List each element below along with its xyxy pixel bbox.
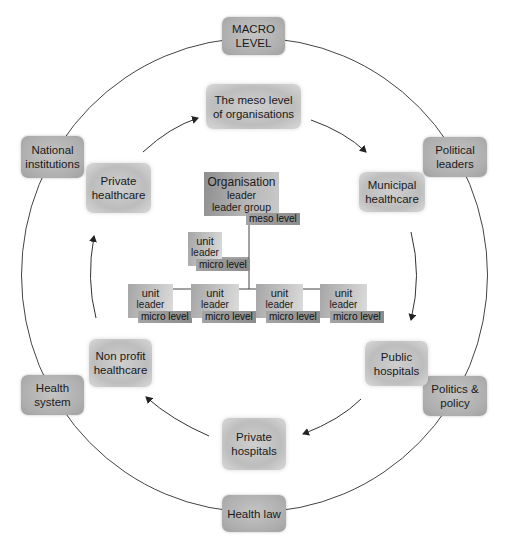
node-private-hospitals: Privatehospitals	[222, 418, 286, 470]
arrow-meso-to-municipal	[311, 120, 366, 152]
node-health-law: Health law	[222, 495, 286, 532]
tag-micro-level-1: micro level	[138, 311, 192, 323]
arrow-municipal-to-public	[411, 232, 417, 320]
node-political-leaders: Politicalleaders	[423, 137, 487, 177]
tag-meso-level: meso level	[246, 213, 300, 225]
node-macro-level: MACROLEVEL	[222, 17, 285, 55]
tag-micro-level-mid: micro level	[196, 259, 250, 271]
arrow-private-to-meso	[143, 118, 198, 152]
node-non-profit-healthcare: Non profithealthcare	[89, 339, 152, 387]
node-politics-policy: Politics &policy	[423, 376, 487, 416]
arrow-privhosp-to-nonprofit	[146, 397, 209, 436]
node-national-institutions: Nationalinstitutions	[21, 136, 84, 178]
tag-micro-level-4: micro level	[330, 311, 384, 323]
node-health-system: Healthsystem	[21, 375, 84, 415]
tag-micro-level-2: micro level	[202, 311, 256, 323]
node-municipal-healthcare: Municipalhealthcare	[359, 172, 425, 212]
node-private-healthcare: Privatehealthcare	[86, 163, 151, 213]
tag-micro-level-3: micro level	[266, 311, 320, 323]
arrow-public-to-privhosp	[303, 399, 361, 434]
node-public-hospitals: Publichospitals	[365, 341, 428, 386]
node-meso-level-organisations: The meso levelof organisations	[206, 84, 301, 129]
org-chart-organisation: Organisation leader leader group	[204, 172, 279, 216]
arrow-nonprofit-to-private	[90, 236, 96, 318]
